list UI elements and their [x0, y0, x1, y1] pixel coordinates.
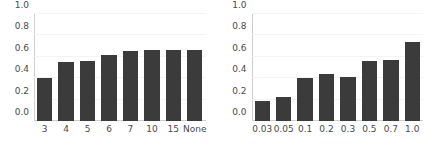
x-tick-label: 10 — [146, 125, 157, 134]
bar-slot: None — [184, 14, 205, 121]
bar-group-right: 0.030.050.10.20.30.50.71.0 — [252, 14, 424, 121]
x-tick-label: 0.3 — [341, 125, 355, 134]
chart-panel-right: 1.00.80.60.40.20.0 0.030.050.10.20.30.50… — [218, 0, 435, 151]
bar-slot: 0.1 — [294, 14, 315, 121]
bar-slot: 7 — [120, 14, 141, 121]
bar — [383, 60, 398, 121]
bar-slot: 3 — [34, 14, 55, 121]
bar — [340, 77, 355, 121]
bar-slot: 0.03 — [252, 14, 273, 121]
bar-slot: 4 — [55, 14, 76, 121]
bar — [166, 50, 181, 121]
bar-slot: 1.0 — [402, 14, 423, 121]
y-tick-label: 0.4 — [232, 65, 246, 74]
x-tick-label: 3 — [42, 125, 48, 134]
bar — [297, 78, 312, 121]
y-tick-label: 1.0 — [232, 1, 246, 10]
bar-slot: 0.3 — [337, 14, 358, 121]
plot-area-left: 1.00.80.60.40.20.0 345671015None — [34, 14, 206, 121]
bar-slot: 15 — [163, 14, 184, 121]
bar — [319, 74, 334, 121]
y-tick-label: 0.0 — [232, 108, 246, 117]
x-tick-label: 0.7 — [384, 125, 398, 134]
bar — [101, 55, 116, 121]
x-tick-label: 4 — [63, 125, 69, 134]
x-tick-label: 0.5 — [362, 125, 376, 134]
bar-slot: 0.5 — [359, 14, 380, 121]
x-tick-label: 0.1 — [298, 125, 312, 134]
plot-area-right: 1.00.80.60.40.20.0 0.030.050.10.20.30.50… — [252, 14, 424, 121]
figure-container: 1.00.80.60.40.20.0 345671015None 1.00.80… — [0, 0, 435, 151]
x-tick-label: 6 — [106, 125, 112, 134]
bar — [405, 42, 420, 121]
bar — [187, 50, 202, 121]
bar — [123, 51, 138, 121]
x-tick-label: 0.2 — [319, 125, 333, 134]
chart-panel-left: 1.00.80.60.40.20.0 345671015None — [0, 0, 218, 151]
bar — [276, 97, 291, 121]
bar-slot: 6 — [98, 14, 119, 121]
x-tick-label: 5 — [85, 125, 91, 134]
x-tick-label: None — [183, 125, 206, 134]
bar-slot: 10 — [141, 14, 162, 121]
x-tick-label: 0.05 — [274, 125, 294, 134]
x-tick-label: 1.0 — [405, 125, 419, 134]
y-tick-label: 0.2 — [15, 86, 29, 95]
bar-slot: 0.05 — [273, 14, 294, 121]
y-tick-label: 0.4 — [15, 65, 29, 74]
bar-slot: 5 — [77, 14, 98, 121]
y-tick-label: 0.8 — [232, 22, 246, 31]
y-tick-label: 0.8 — [15, 22, 29, 31]
bar — [80, 61, 95, 121]
bar — [58, 62, 73, 121]
y-tick-label: 0.0 — [15, 108, 29, 117]
bar-slot: 0.7 — [380, 14, 401, 121]
bar — [255, 101, 270, 121]
x-tick-label: 15 — [168, 125, 179, 134]
bar — [37, 78, 52, 121]
bar — [144, 50, 159, 121]
y-tick-label: 0.6 — [232, 43, 246, 52]
bar-slot: 0.2 — [316, 14, 337, 121]
y-tick-label: 1.0 — [15, 1, 29, 10]
x-tick-label: 7 — [128, 125, 134, 134]
bar — [362, 61, 377, 121]
y-tick-label: 0.6 — [15, 43, 29, 52]
y-tick-label: 0.2 — [232, 86, 246, 95]
bar-group-left: 345671015None — [34, 14, 206, 121]
x-tick-label: 0.03 — [252, 125, 272, 134]
